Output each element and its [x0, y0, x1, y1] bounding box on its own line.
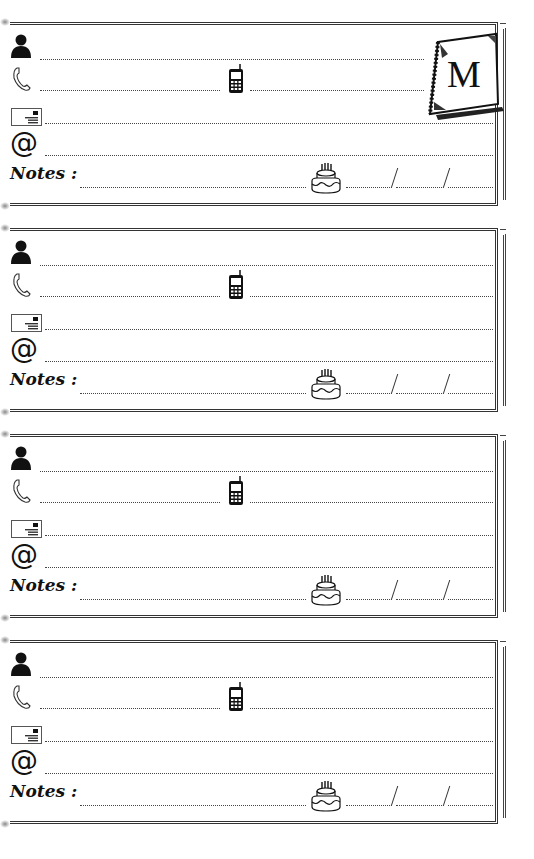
card-frame	[4, 434, 498, 618]
mobile-phone-icon	[228, 682, 244, 712]
mobile-field[interactable]	[250, 296, 493, 297]
address-field[interactable]	[45, 329, 493, 330]
phone-handset-icon	[11, 272, 33, 298]
envelope-icon	[11, 108, 43, 126]
birthday-month-field[interactable]	[396, 599, 442, 600]
notes-label-text: Notes :	[10, 369, 77, 389]
birthday-cake-icon	[310, 368, 342, 400]
person-icon	[10, 34, 32, 58]
birthday-year-field[interactable]	[448, 393, 493, 394]
birthday-year-field[interactable]	[448, 187, 493, 188]
phone-handset-icon	[11, 684, 33, 710]
mobile-field[interactable]	[250, 502, 493, 503]
mobile-field[interactable]	[250, 708, 493, 709]
person-icon	[10, 652, 32, 676]
birthday-day-field[interactable]	[346, 599, 390, 600]
at-sign-icon: @	[10, 334, 38, 364]
mobile-phone-icon	[228, 270, 244, 300]
birthday-cake-icon	[310, 574, 342, 606]
binder-mark	[0, 408, 10, 416]
letter-tab-text: M	[447, 53, 481, 95]
phone-field[interactable]	[40, 502, 220, 503]
contact-card: @ Notes :	[4, 640, 498, 824]
at-sign-icon: @	[10, 128, 38, 158]
binder-mark	[0, 224, 10, 232]
binder-mark	[0, 820, 10, 828]
binder-mark	[0, 430, 10, 438]
card-frame	[4, 228, 498, 412]
contact-card: @ Notes :	[4, 228, 498, 412]
at-sign-icon: @	[10, 746, 38, 776]
birthday-month-field[interactable]	[396, 393, 442, 394]
notes-field[interactable]	[80, 187, 306, 188]
contact-card: @ Notes :	[4, 434, 498, 618]
birthday-year-field[interactable]	[448, 599, 493, 600]
birthday-year-field[interactable]	[448, 805, 493, 806]
binder-mark	[0, 614, 10, 622]
phone-field[interactable]	[40, 296, 220, 297]
person-icon	[10, 446, 32, 470]
email-field[interactable]	[45, 361, 493, 362]
phone-field[interactable]	[40, 90, 220, 91]
notes-label: Notes :	[10, 163, 77, 183]
mobile-phone-icon	[228, 64, 244, 94]
phone-handset-icon	[11, 478, 33, 504]
address-field[interactable]	[45, 123, 493, 124]
notes-label: Notes :	[10, 781, 77, 801]
birthday-day-field[interactable]	[346, 187, 390, 188]
notes-label: Notes :	[10, 369, 77, 389]
birthday-month-field[interactable]	[396, 187, 442, 188]
address-field[interactable]	[45, 535, 493, 536]
notes-label-text: Notes :	[10, 163, 77, 183]
email-field[interactable]	[45, 773, 493, 774]
birthday-day-field[interactable]	[346, 393, 390, 394]
email-field[interactable]	[45, 567, 493, 568]
notebook-icon: M	[424, 32, 506, 122]
binder-mark	[0, 202, 10, 210]
notes-field[interactable]	[80, 805, 306, 806]
mobile-field[interactable]	[250, 90, 424, 91]
birthday-cake-icon	[310, 162, 342, 194]
name-field[interactable]	[40, 265, 493, 266]
mobile-phone-icon	[228, 476, 244, 506]
address-field[interactable]	[45, 741, 493, 742]
name-field[interactable]	[40, 471, 493, 472]
card-frame	[4, 640, 498, 824]
phone-field[interactable]	[40, 708, 220, 709]
birthday-cake-icon	[310, 780, 342, 812]
notes-label: Notes :	[10, 575, 77, 595]
birthday-day-field[interactable]	[346, 805, 390, 806]
notes-field[interactable]	[80, 599, 306, 600]
at-sign-icon: @	[10, 540, 38, 570]
notes-label-text: Notes :	[10, 781, 77, 801]
binder-mark	[0, 18, 10, 26]
binder-mark	[0, 636, 10, 644]
envelope-icon	[11, 314, 43, 332]
phone-handset-icon	[11, 66, 33, 92]
notes-label-text: Notes :	[10, 575, 77, 595]
name-field[interactable]	[40, 677, 493, 678]
notes-field[interactable]	[80, 393, 306, 394]
name-field[interactable]	[40, 59, 424, 60]
envelope-icon	[11, 520, 43, 538]
birthday-month-field[interactable]	[396, 805, 442, 806]
envelope-icon	[11, 726, 43, 744]
person-icon	[10, 240, 32, 264]
email-field[interactable]	[45, 155, 493, 156]
